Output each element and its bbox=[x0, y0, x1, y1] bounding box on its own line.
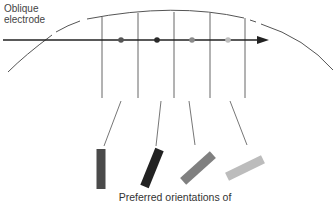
orientation-bars bbox=[97, 148, 265, 189]
orientation-bar-3 bbox=[180, 151, 216, 184]
leader-line-1 bbox=[104, 101, 121, 146]
arrowhead-icon bbox=[257, 36, 269, 44]
leader-line-4 bbox=[230, 101, 247, 145]
diagram-canvas: Oblique electrode Preferred orientations… bbox=[0, 0, 336, 206]
column-boundary-lines bbox=[102, 12, 245, 98]
recording-point-3 bbox=[189, 37, 195, 43]
leader-line-3 bbox=[189, 101, 195, 145]
recording-point-1 bbox=[118, 37, 124, 43]
leader-lines bbox=[104, 101, 247, 146]
orientation-bar-2 bbox=[140, 148, 163, 188]
orientation-bar-1 bbox=[97, 149, 106, 189]
leader-line-2 bbox=[156, 101, 161, 146]
electrode-label-line1: Oblique bbox=[4, 3, 64, 14]
cortex-electrode-diagram bbox=[0, 0, 336, 206]
electrode-label: Oblique electrode bbox=[4, 3, 64, 25]
orientation-bar-4 bbox=[225, 155, 265, 181]
recording-point-4 bbox=[225, 37, 231, 43]
electrode-label-line2: electrode bbox=[4, 14, 64, 25]
recording-point-2 bbox=[154, 37, 160, 43]
diagram-caption: Preferred orientations of bbox=[0, 192, 336, 203]
